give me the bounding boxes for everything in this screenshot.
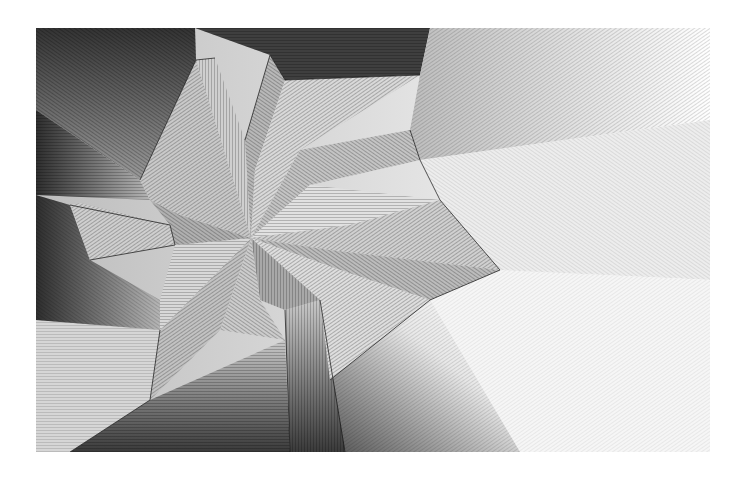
line-art-artwork: [0, 0, 747, 481]
artwork-frame: [36, 28, 710, 452]
